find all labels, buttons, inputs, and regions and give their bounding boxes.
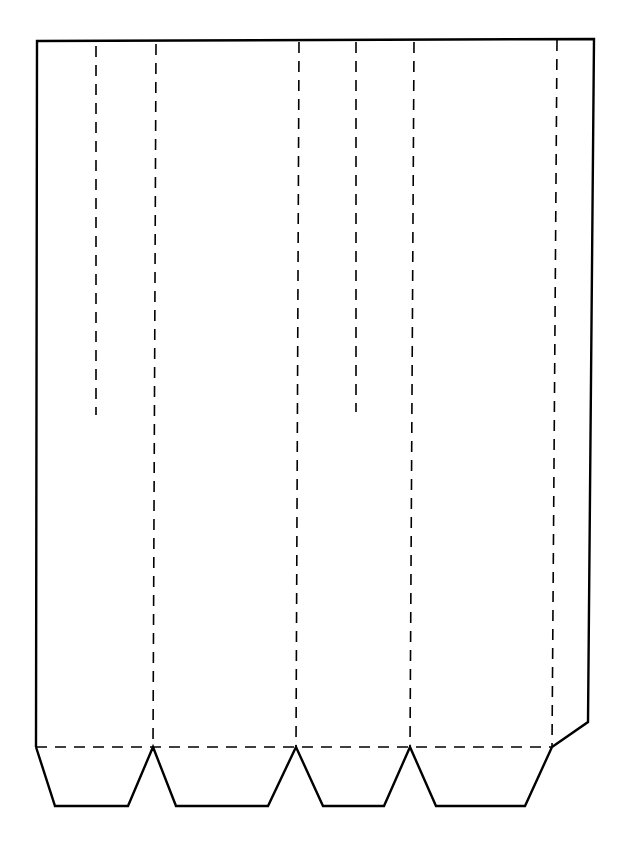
cut-outline [36,39,594,806]
box-template [0,0,626,857]
fold-lines [36,40,557,747]
